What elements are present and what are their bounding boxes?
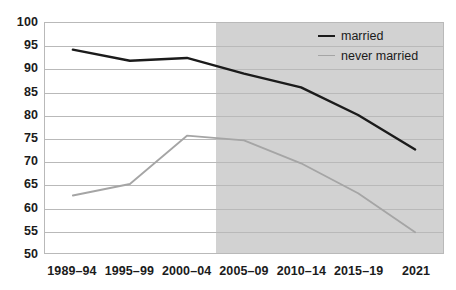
y-tick-label: 90	[2, 61, 38, 75]
x-tick-label: 2010–14	[277, 264, 326, 278]
x-tick-label: 2000–04	[162, 264, 211, 278]
chart-legend: marriednever married	[318, 28, 418, 63]
series-line-married	[73, 50, 415, 150]
legend-line-icon	[318, 35, 335, 37]
x-tick-label: 1989–94	[47, 264, 96, 278]
y-tick-label: 75	[2, 131, 38, 145]
legend-item-label: married	[341, 29, 383, 43]
y-tick-label: 80	[2, 108, 38, 122]
y-tick-label: 100	[2, 15, 38, 29]
y-tick-label: 85	[2, 85, 38, 99]
x-tick-label: 2005–09	[219, 264, 268, 278]
x-tick-label: 2015–19	[334, 264, 383, 278]
legend-item-label: never married	[341, 49, 418, 63]
line-chart: 50556065707580859095100 1989–941995–9920…	[0, 0, 456, 290]
y-tick-label: 50	[2, 247, 38, 261]
x-tick-label: 2021	[402, 264, 430, 278]
y-tick-label: 95	[2, 38, 38, 52]
y-tick-label: 60	[2, 201, 38, 215]
legend-item: married	[318, 28, 418, 43]
series-line-never-married	[73, 136, 415, 233]
x-tick-label: 1995–99	[105, 264, 154, 278]
legend-item: never married	[318, 48, 418, 63]
y-tick-label: 55	[2, 224, 38, 238]
legend-line-icon	[318, 55, 335, 56]
y-tick-label: 70	[2, 154, 38, 168]
y-tick-label: 65	[2, 177, 38, 191]
